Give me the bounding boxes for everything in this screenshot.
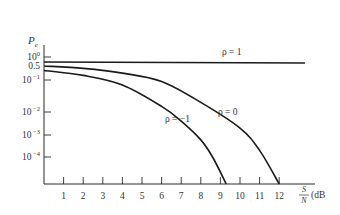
curve-rho-1 <box>44 62 305 63</box>
y-tick-label: 10 −3 <box>22 128 40 140</box>
x-tick-label: 4 <box>120 191 125 201</box>
y-tick-label: 0.5 <box>28 61 40 71</box>
y-axis-label: Pe <box>27 34 38 49</box>
y-tick-label: 10 −4 <box>22 150 41 162</box>
x-tick-label: 10 <box>235 191 245 201</box>
x-tick-label: 8 <box>198 191 203 201</box>
svg-text:S: S <box>302 185 306 194</box>
y-tick-label: 10 −1 <box>22 73 40 85</box>
y-tick-label: 10 −2 <box>22 105 40 117</box>
curve-labels: ρ = 1ρ = 0ρ = −1 <box>165 47 242 124</box>
x-tick-label: 7 <box>179 191 184 201</box>
x-tick-label: 6 <box>159 191 164 201</box>
x-tick-label: 2 <box>81 191 86 201</box>
label-rho-1: ρ = 1 <box>222 47 242 57</box>
x-tick-label: 12 <box>274 191 284 201</box>
x-axis-label: S N (dB <box>299 185 325 205</box>
label-rho-0: ρ = 0 <box>218 107 238 117</box>
x-tick-label: 5 <box>140 191 145 201</box>
error-probability-chart: Pe S N (dB 1000.510 −110 −210 −310 −4 12… <box>0 0 340 215</box>
x-tick-label: 11 <box>255 191 264 201</box>
x-tick-label: 3 <box>100 191 105 201</box>
curve-rho-0 <box>44 66 279 184</box>
curve-rho-minus-1 <box>44 70 226 184</box>
label-rho-minus-1: ρ = −1 <box>165 114 190 124</box>
svg-text:(dB: (dB <box>311 190 325 201</box>
x-tick-label: 9 <box>218 191 223 201</box>
svg-text:N: N <box>300 196 307 205</box>
x-tick-label: 1 <box>61 191 66 201</box>
x-ticks: 123456789101112 <box>61 177 284 201</box>
